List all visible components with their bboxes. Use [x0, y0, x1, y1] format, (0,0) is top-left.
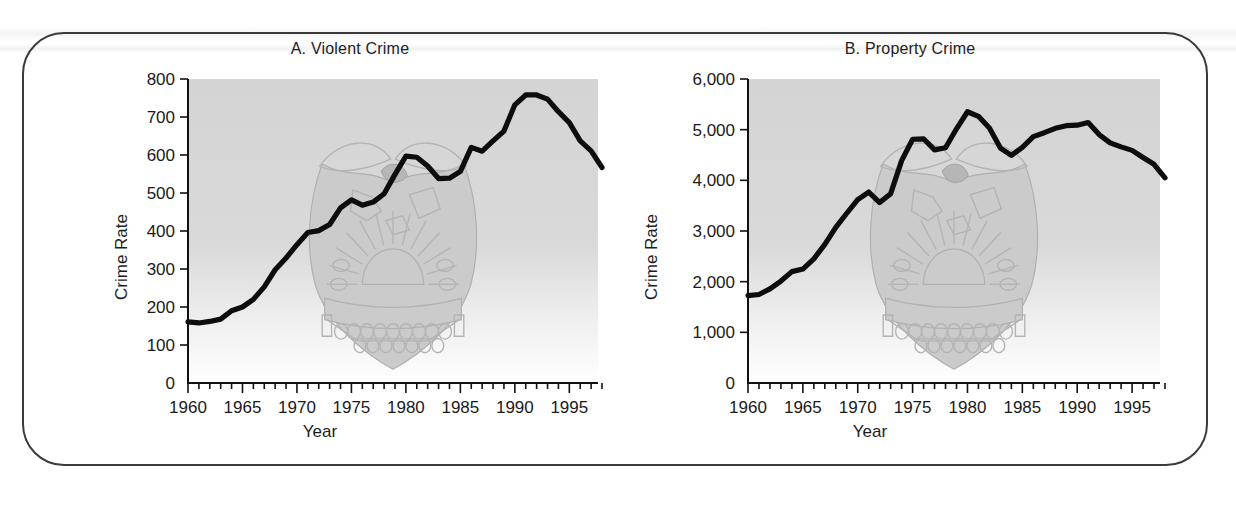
figure-page: A. Violent Crime Crime Rate Year 0100200… — [0, 0, 1236, 508]
svg-text:1980: 1980 — [387, 398, 425, 417]
svg-text:3,000: 3,000 — [692, 222, 735, 241]
svg-text:0: 0 — [726, 374, 735, 393]
svg-text:1975: 1975 — [333, 398, 371, 417]
svg-text:1960: 1960 — [169, 398, 207, 417]
svg-text:1960: 1960 — [729, 398, 767, 417]
svg-text:1990: 1990 — [496, 398, 534, 417]
chart-panel-property-crime: B. Property Crime Crime Rate Year 01,000… — [620, 32, 1200, 462]
svg-text:1990: 1990 — [1058, 398, 1096, 417]
svg-text:1995: 1995 — [550, 398, 588, 417]
svg-text:500: 500 — [147, 184, 175, 203]
svg-text:1,000: 1,000 — [692, 323, 735, 342]
svg-text:1970: 1970 — [839, 398, 877, 417]
svg-text:1970: 1970 — [278, 398, 316, 417]
plot-area-a: 0100200300400500600700800196019651970197… — [70, 32, 630, 462]
svg-text:0: 0 — [166, 374, 175, 393]
svg-text:100: 100 — [147, 336, 175, 355]
svg-text:1980: 1980 — [949, 398, 987, 417]
svg-text:1965: 1965 — [784, 398, 822, 417]
svg-text:4,000: 4,000 — [692, 171, 735, 190]
svg-text:700: 700 — [147, 108, 175, 127]
svg-text:600: 600 — [147, 146, 175, 165]
svg-text:300: 300 — [147, 260, 175, 279]
svg-text:1975: 1975 — [894, 398, 932, 417]
svg-text:6,000: 6,000 — [692, 70, 735, 89]
svg-text:800: 800 — [147, 70, 175, 89]
svg-text:2,000: 2,000 — [692, 273, 735, 292]
svg-text:200: 200 — [147, 298, 175, 317]
svg-text:400: 400 — [147, 222, 175, 241]
svg-text:1985: 1985 — [1003, 398, 1041, 417]
svg-text:1965: 1965 — [224, 398, 262, 417]
svg-text:1985: 1985 — [441, 398, 479, 417]
chart-panel-violent-crime: A. Violent Crime Crime Rate Year 0100200… — [70, 32, 630, 462]
svg-text:1995: 1995 — [1113, 398, 1151, 417]
plot-area-b: 01,0002,0003,0004,0005,0006,000196019651… — [620, 32, 1200, 462]
svg-text:5,000: 5,000 — [692, 121, 735, 140]
